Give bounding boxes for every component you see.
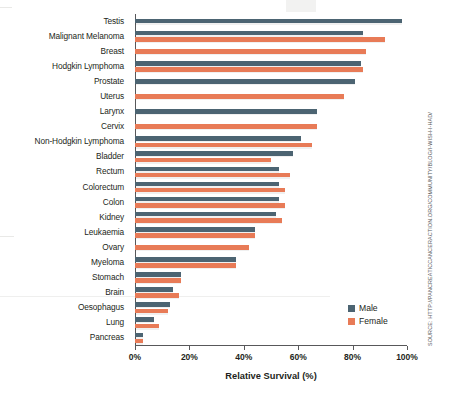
category-label: Hodgkin Lymphoma — [52, 62, 124, 71]
category-label: Colorectum — [83, 183, 124, 192]
bar-female-non-hodgkin-lymphoma — [135, 143, 312, 148]
legend-swatch-female-icon — [348, 318, 355, 325]
bar-male-brain — [135, 287, 173, 292]
x-axis-tick — [244, 346, 245, 350]
category-label: Leukaemia — [84, 228, 124, 237]
legend-label: Male — [359, 303, 378, 313]
bar-female-pancreas — [135, 339, 143, 344]
category-label: Bladder — [96, 152, 124, 161]
x-axis-tick-label: 80% — [344, 352, 361, 362]
x-axis-tick-label: 40% — [235, 352, 252, 362]
category-axis-labels: TestisMalignant MelanomaBreastHodgkin Ly… — [0, 14, 128, 346]
bar-female-colorectum — [135, 188, 285, 193]
category-label: Larynx — [100, 107, 124, 116]
bar-male-leukaemia — [135, 227, 255, 232]
category-label: Testis — [103, 17, 124, 26]
category-label: Non-Hodgkin Lymphoma — [35, 137, 124, 146]
bar-male-non-hodgkin-lymphoma — [135, 136, 301, 141]
bar-male-rectum — [135, 167, 279, 172]
x-axis-tick-label: 20% — [181, 352, 198, 362]
bar-female-oesophagus — [135, 309, 168, 314]
bar-female-lung — [135, 324, 159, 329]
x-axis-tick — [407, 346, 408, 350]
category-label: Uterus — [100, 92, 124, 101]
legend-swatch-male-icon — [348, 305, 355, 312]
category-label: Breast — [101, 47, 124, 56]
bar-male-bladder — [135, 151, 293, 156]
bar-female-brain — [135, 293, 179, 298]
x-axis-tick-label: 60% — [290, 352, 307, 362]
category-label: Malignant Melanoma — [49, 32, 124, 41]
category-label: Oesophagus — [78, 303, 124, 312]
category-label: Prostate — [94, 77, 124, 86]
category-label: Pancreas — [90, 333, 124, 342]
x-axis-tick — [353, 346, 354, 350]
bar-male-hodgkin-lymphoma — [135, 61, 361, 66]
category-label: Rectum — [96, 167, 124, 176]
category-label: Kidney — [99, 213, 124, 222]
bar-female-leukaemia — [135, 233, 255, 238]
bar-male-larynx — [135, 109, 317, 114]
bar-male-malignant-melanoma — [135, 31, 363, 36]
bar-male-colon — [135, 197, 279, 202]
bar-male-myeloma — [135, 257, 236, 262]
bar-male-oesophagus — [135, 302, 170, 307]
plot-wrapper: TestisMalignant MelanomaBreastHodgkin Ly… — [0, 14, 412, 346]
bar-male-prostate — [135, 79, 355, 84]
category-label: Brain — [105, 288, 124, 297]
legend-item-female[interactable]: Female — [348, 316, 410, 326]
category-label: Cervix — [101, 122, 124, 131]
x-axis-tick — [135, 346, 136, 350]
x-axis-tick-label: 100% — [396, 352, 418, 362]
bar-female-cervix — [135, 124, 317, 129]
source-credit: SOURCE: HTTP://PANCREATICCANCERACTION.OR… — [427, 112, 433, 346]
x-axis-tick — [298, 346, 299, 350]
category-label: Colon — [103, 198, 124, 207]
plot-area: 0%20%40%60%80%100% — [135, 14, 407, 346]
category-label: Lung — [106, 318, 124, 327]
bar-female-bladder — [135, 158, 271, 163]
bar-female-myeloma — [135, 263, 236, 268]
x-axis-title: Relative Survival (%) — [135, 371, 407, 381]
legend-label: Female — [359, 316, 388, 326]
bar-female-breast — [135, 49, 366, 54]
x-axis-line — [135, 345, 407, 346]
category-label: Ovary — [102, 243, 124, 252]
legend-item-male[interactable]: Male — [348, 303, 410, 313]
bar-male-colorectum — [135, 182, 279, 187]
bar-male-pancreas — [135, 333, 143, 338]
category-label: Myeloma — [91, 258, 124, 267]
bar-female-rectum — [135, 173, 290, 178]
chart-legend: MaleFemale — [348, 303, 410, 329]
x-axis-tick — [189, 346, 190, 350]
bar-female-colon — [135, 203, 285, 208]
bar-female-kidney — [135, 218, 282, 223]
bar-female-uterus — [135, 94, 344, 99]
bar-male-stomach — [135, 272, 181, 277]
bar-male-testis — [135, 19, 402, 24]
bar-male-lung — [135, 317, 154, 322]
x-axis-tick-label: 0% — [129, 352, 141, 362]
bar-male-kidney — [135, 212, 276, 217]
bar-female-hodgkin-lymphoma — [135, 67, 363, 72]
bar-female-malignant-melanoma — [135, 37, 385, 42]
bar-female-ovary — [135, 245, 249, 250]
relative-survival-bar-chart: TestisMalignant MelanomaBreastHodgkin Ly… — [0, 0, 453, 398]
bar-female-stomach — [135, 278, 181, 283]
category-label: Stomach — [92, 273, 124, 282]
